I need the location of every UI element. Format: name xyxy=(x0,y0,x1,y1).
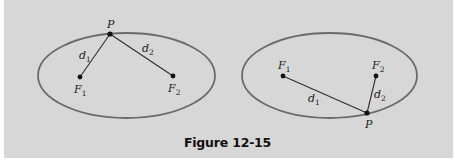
right-label-f2: F2 xyxy=(371,59,385,74)
right-label-d1: d1 xyxy=(308,92,320,107)
left-ellipse xyxy=(38,33,215,118)
left-focus-f2 xyxy=(171,74,176,79)
right-ellipse-diagram: P F1 F2 d1 d2 xyxy=(242,33,417,131)
right-ellipse xyxy=(242,33,417,118)
left-label-f2: F2 xyxy=(167,82,181,97)
left-point-p xyxy=(107,31,112,36)
right-focus-f2 xyxy=(374,74,379,79)
figure-caption: Figure 12-15 xyxy=(0,135,455,150)
left-label-d1: d1 xyxy=(79,49,91,64)
right-segment-d1 xyxy=(283,76,367,113)
right-focus-f1 xyxy=(281,74,286,79)
right-label-p: P xyxy=(364,118,373,131)
right-label-f1: F1 xyxy=(277,59,290,74)
left-segment-d2 xyxy=(110,34,173,76)
left-focus-f1 xyxy=(78,75,83,80)
right-point-p xyxy=(364,110,369,115)
left-label-d2: d2 xyxy=(142,42,154,57)
left-label-p: P xyxy=(106,18,115,31)
left-label-f1: F1 xyxy=(73,83,86,98)
right-label-d2: d2 xyxy=(374,88,386,103)
left-ellipse-diagram: P F1 F2 d1 d2 xyxy=(38,18,215,118)
